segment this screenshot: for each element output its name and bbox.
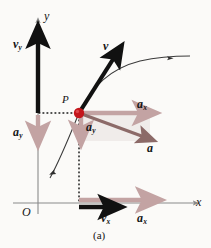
label-a-x-at-p-subscript: x — [143, 103, 147, 112]
velocity-vector-at-p — [79, 53, 117, 113]
origin-label: O — [22, 206, 31, 218]
projection-guides — [39, 113, 79, 201]
path-direction-arrow-lower — [49, 170, 56, 175]
label-a-resultant: a — [147, 142, 153, 154]
x-axis-label: x — [196, 196, 201, 208]
vector-v — [79, 53, 117, 113]
point-p-label: P — [62, 94, 69, 105]
particle-position-dot — [74, 108, 84, 118]
label-a-x-on-axis: ax — [137, 212, 147, 225]
label-a-y-at-p: ay — [86, 121, 95, 134]
label-v-x-subscript: x — [106, 217, 110, 226]
y-axis-label: y — [44, 10, 49, 22]
label-v: v — [103, 40, 108, 52]
figure-caption: (a) — [93, 230, 105, 241]
label-a-x-at-p: ax — [137, 98, 147, 111]
label-v-y-on-axis: vy — [13, 38, 22, 51]
label-a-y-at-p-subscript: y — [92, 126, 95, 135]
label-a-y-on-axis: ay — [13, 126, 22, 139]
label-a-y-axis-subscript: y — [19, 131, 22, 140]
physics-vector-diagram: y x O P vy ay v ax ay a vx ax (a) — [0, 0, 211, 248]
label-v-x-on-axis: vx — [101, 212, 110, 225]
label-v-y-subscript: y — [18, 43, 21, 52]
label-a-x-axis-subscript: x — [143, 217, 147, 226]
